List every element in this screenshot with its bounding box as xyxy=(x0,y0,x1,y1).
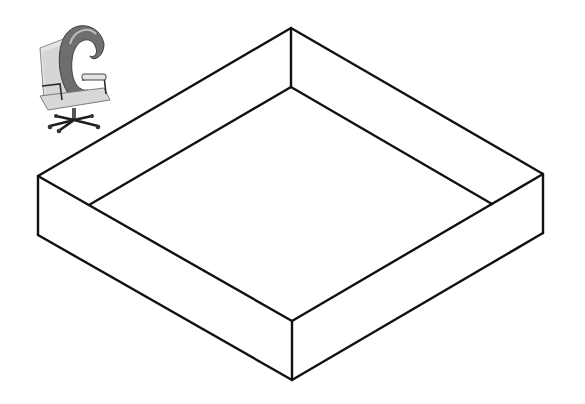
office-chair-with-letter-c-icon xyxy=(40,26,110,134)
isometric-box-diagram xyxy=(0,0,585,404)
box-inner-floor-edge xyxy=(89,87,492,205)
box-bottom-edge xyxy=(38,233,543,380)
